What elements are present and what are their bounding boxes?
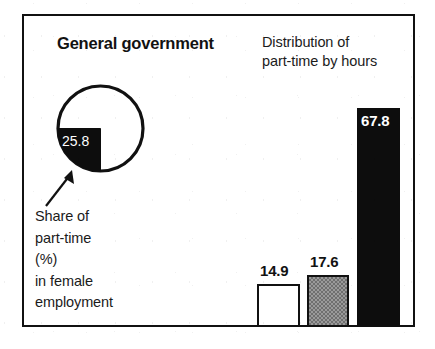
bar-chart: 14.9 17.6 67.8 (22, 14, 415, 327)
bar-3-value-label: 67.8 (361, 112, 389, 129)
bar-1-value-label: 14.9 (260, 262, 288, 279)
bar-2-value-label: 17.6 (310, 253, 338, 270)
bar-2 (307, 275, 349, 327)
bar-3 (357, 108, 400, 327)
bar-1 (257, 284, 300, 327)
figure-container: General government Distribution of part-… (0, 0, 435, 349)
